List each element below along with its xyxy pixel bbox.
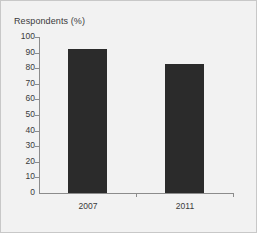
y-axis-tick-mark <box>35 177 39 178</box>
y-axis-tick-label: 90 <box>26 47 35 57</box>
x-axis-tick-mark <box>136 193 137 197</box>
y-axis-tick-label: 20 <box>26 156 35 166</box>
y-axis-tick-label: 30 <box>26 140 35 150</box>
y-axis-tick-label: 40 <box>26 125 35 135</box>
chart-title: Respondents (%) <box>14 16 85 26</box>
y-axis-tick-label: 80 <box>26 62 35 72</box>
bar <box>68 49 107 193</box>
bar <box>165 64 204 193</box>
x-axis-tick-mark <box>233 193 234 197</box>
y-axis-tick-mark <box>35 146 39 147</box>
y-axis-tick-label: 70 <box>26 78 35 88</box>
y-axis-tick-mark <box>35 68 39 69</box>
y-axis-tick-label: 60 <box>26 93 35 103</box>
plot-area: 0102030405060708090100 20072011 <box>39 37 233 193</box>
y-axis-tick-label: 50 <box>26 109 35 119</box>
y-axis-tick-mark <box>35 84 39 85</box>
y-axis-tick-mark <box>35 115 39 116</box>
x-axis-tick-label: 2011 <box>176 201 194 211</box>
y-axis-tick-mark <box>35 37 39 38</box>
y-axis-tick-label: 100 <box>21 31 35 41</box>
y-axis-tick-mark <box>35 162 39 163</box>
y-axis-tick-label: 0 <box>30 187 35 197</box>
y-axis-tick-mark <box>35 99 39 100</box>
y-axis-tick-mark <box>35 131 39 132</box>
y-axis-tick-mark <box>35 53 39 54</box>
chart-figure: Respondents (%) 0102030405060708090100 2… <box>0 0 257 233</box>
y-axis-line <box>39 37 40 194</box>
y-axis-tick-label: 10 <box>26 171 35 181</box>
x-axis-tick-label: 2007 <box>79 201 98 211</box>
